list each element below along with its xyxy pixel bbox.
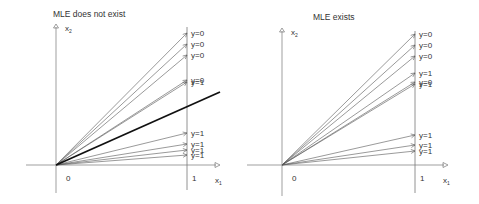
- x-axis-label: x1: [215, 176, 222, 186]
- x-one-tick-label: 1: [192, 174, 197, 183]
- vector-label: y=0: [191, 29, 205, 38]
- origin-label: 0: [66, 174, 71, 183]
- arrowhead-icon: [411, 84, 415, 88]
- mle-diagram: MLE does not existx2x101y=0y=0y=0y=0y=1y…: [0, 0, 479, 204]
- x-axis-label: x1: [443, 176, 450, 186]
- vector-label: y=0: [191, 51, 205, 60]
- y-axis-label: x2: [291, 28, 298, 38]
- panel-0: MLE does not existx2x101y=0y=0y=0y=0y=1y…: [26, 9, 222, 193]
- panel-title: MLE exists: [313, 12, 355, 22]
- vector-label: y=1: [419, 131, 433, 140]
- vector-label: y=1: [191, 151, 205, 160]
- arrowhead-icon: [183, 82, 187, 86]
- data-vector: y=0: [56, 76, 205, 165]
- vector-label: y=0: [419, 52, 433, 61]
- data-vector: y=1: [56, 78, 205, 165]
- arrowhead-icon: [411, 73, 415, 77]
- x-one-tick-label: 1: [420, 174, 425, 183]
- vector-label: y=1: [191, 78, 205, 87]
- vector-label: y=0: [419, 41, 433, 50]
- vector-label: y=0: [419, 30, 433, 39]
- vector-label: y=0: [191, 40, 205, 49]
- vector-label: y=1: [419, 147, 433, 156]
- panel-title: MLE does not exist: [53, 9, 126, 19]
- vector-label: y=1: [419, 69, 433, 78]
- y-axis-label: x2: [65, 24, 72, 34]
- origin-label: 0: [292, 174, 297, 183]
- panel-1: MLE existsx2x101y=0y=0y=0y=1y=0y=1y=1y=1…: [247, 12, 450, 196]
- vector-label: y=1: [191, 129, 205, 138]
- data-vector: y=1: [282, 131, 433, 165]
- data-vector: y=1: [282, 80, 433, 165]
- vector-label: y=1: [419, 80, 433, 89]
- data-vector: y=1: [56, 140, 205, 165]
